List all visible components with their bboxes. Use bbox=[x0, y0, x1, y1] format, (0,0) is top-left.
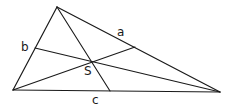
label-side-a: a bbox=[117, 25, 124, 39]
median-from-C-to-c bbox=[57, 7, 110, 91]
label-side-b: b bbox=[21, 40, 29, 54]
label-side-c: c bbox=[92, 93, 99, 107]
side-a bbox=[57, 7, 220, 92]
median-from-B-to-b bbox=[35, 48, 220, 92]
label-centroid-S: S bbox=[84, 64, 92, 78]
median-from-A-to-a bbox=[13, 47, 135, 90]
triangle-medians-diagram: a b c S bbox=[0, 0, 230, 109]
side-c bbox=[13, 90, 220, 92]
